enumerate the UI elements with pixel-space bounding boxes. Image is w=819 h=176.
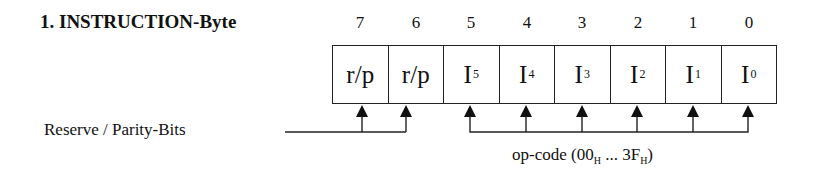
opcode-label: op-code (00H ... 3FH) (512, 145, 653, 166)
reserve-parity-label: Reserve / Parity-Bits (44, 120, 186, 140)
arrow-up-icons (356, 105, 754, 117)
connector-lines (0, 0, 819, 176)
